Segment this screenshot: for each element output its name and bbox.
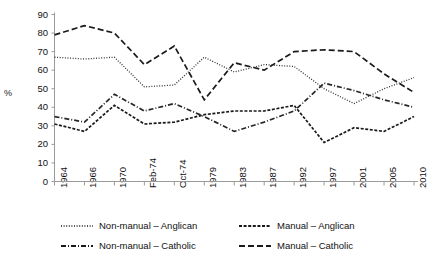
series-line-0 (55, 57, 415, 103)
legend-item[interactable]: Non-manual – Anglican (60, 220, 197, 231)
legend-item[interactable]: Manual – Anglican (238, 220, 355, 231)
legend-item[interactable]: Manual – Catholic (238, 240, 353, 251)
legend-item-label: Non-manual – Anglican (99, 220, 197, 231)
legend-line-swatch (238, 241, 272, 251)
series-line-3 (55, 26, 415, 100)
legend-item-label: Manual – Anglican (277, 220, 355, 231)
legend-item-label: Manual – Catholic (277, 240, 353, 251)
legend-item-label: Non-manual – Catholic (99, 240, 196, 251)
legend-line-swatch (60, 221, 94, 231)
legend-item[interactable]: Non-manual – Catholic (60, 240, 196, 251)
legend-line-swatch (238, 221, 272, 231)
data-series-group (55, 26, 415, 143)
series-line-1 (55, 105, 415, 142)
legend-line-swatch (60, 241, 94, 251)
axes (52, 13, 419, 186)
series-line-2 (55, 83, 415, 131)
chart-legend: Non-manual – AnglicanManual – AnglicanNo… (60, 218, 400, 262)
